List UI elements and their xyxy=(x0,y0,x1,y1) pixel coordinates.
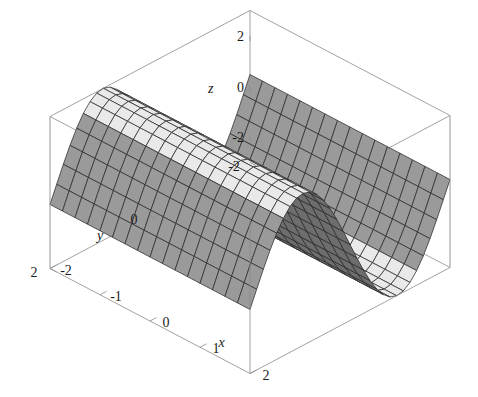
surface-plot-figure: x -2 -1 0 1 2 y -2 0 2 z -2 0 2 xyxy=(0,0,478,397)
z-tick-label: -2 xyxy=(232,130,244,145)
y-tick-label: 2 xyxy=(31,265,38,280)
x-tick-label: 0 xyxy=(163,315,170,330)
x-tick-label: -1 xyxy=(110,289,122,304)
x-tick-label: -2 xyxy=(60,263,72,278)
surface-plot-canvas: x -2 -1 0 1 2 y -2 0 2 z -2 0 2 xyxy=(0,0,478,397)
z-tick-label: 2 xyxy=(237,29,244,44)
z-tick-label: 0 xyxy=(237,80,244,95)
y-tick-label: -2 xyxy=(228,159,240,174)
x-tick-label: 1 xyxy=(213,341,220,356)
y-tick-label: 0 xyxy=(131,212,138,227)
x-tick-label: 2 xyxy=(263,368,270,383)
y-axis-label: y xyxy=(95,228,104,243)
z-axis-label: z xyxy=(207,81,214,96)
